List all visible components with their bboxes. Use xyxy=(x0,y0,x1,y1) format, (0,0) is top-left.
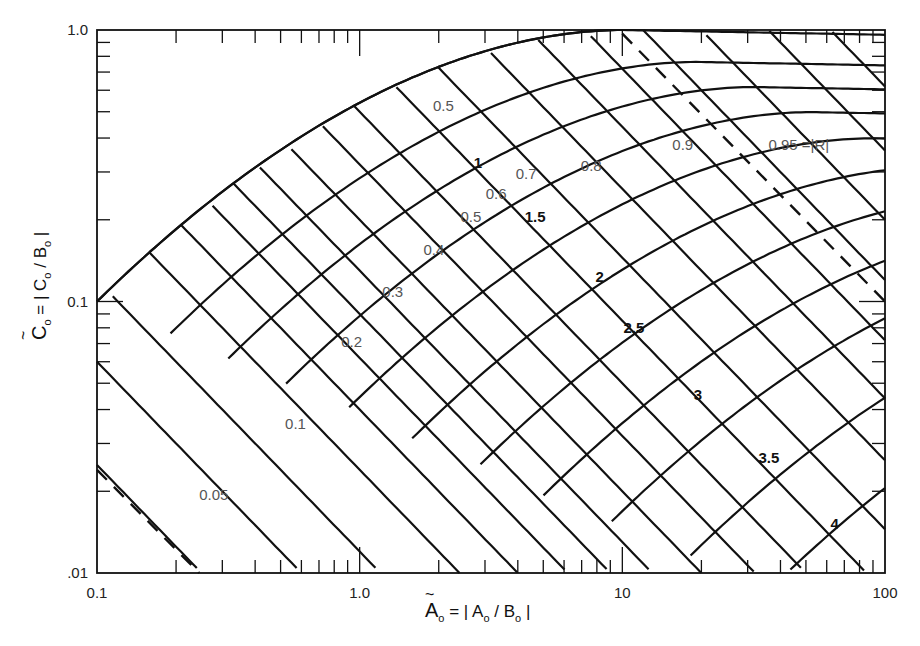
dashed-boundary-line xyxy=(97,470,199,573)
curve-line xyxy=(538,40,885,398)
curve-label: 0.95 =|R| xyxy=(768,136,829,153)
curve-label: 0.4 xyxy=(424,241,445,258)
x-tick-label: 10 xyxy=(614,584,631,601)
curve-label: 0.9 xyxy=(672,136,693,153)
y-axis-title: Co = | Co / Bo | ~ xyxy=(15,232,53,340)
svg-text:Co = | Co / Bo |: Co = | Co / Bo | xyxy=(28,232,53,340)
curve-line xyxy=(228,87,885,359)
smith-like-chart: 0.11.0101001.00.1.01 0.050.10.20.30.40.5… xyxy=(0,0,920,646)
curve-line xyxy=(544,261,886,496)
curve-label: 0.5 xyxy=(433,97,454,114)
curve-label: 0.2 xyxy=(341,333,362,350)
curve-label: 0.6 xyxy=(486,185,507,202)
y-tick-label: 0.1 xyxy=(67,293,88,310)
y-title-tilde: ~ xyxy=(15,331,32,340)
svg-text:Ao = | Ao / Bo |: Ao = | Ao / Bo | xyxy=(425,599,530,624)
curve-label: 0.8 xyxy=(581,157,602,174)
curve-line xyxy=(323,126,754,571)
curve-line xyxy=(769,31,885,151)
tick-labels: 0.11.0101001.00.1.01 xyxy=(67,21,897,601)
curve-line xyxy=(612,318,885,521)
y-tick-label: 1.0 xyxy=(67,21,88,38)
curve-line xyxy=(234,184,607,569)
curve-label: 4 xyxy=(830,515,839,532)
x-tick-label: 100 xyxy=(872,584,897,601)
curve-line xyxy=(213,206,565,570)
curve-label: 3 xyxy=(694,386,702,403)
curve-line xyxy=(833,32,886,86)
curve-line xyxy=(97,465,197,568)
x-tick-label: 0.1 xyxy=(87,584,108,601)
y-tick-label: .01 xyxy=(67,564,88,581)
x-title-tilde: ~ xyxy=(425,586,434,603)
curve-label: 0.05 xyxy=(199,486,228,503)
curve-label: 2.5 xyxy=(623,319,644,336)
x-axis-title: Ao = | Ao / Bo | ~ xyxy=(425,586,530,624)
curve-line xyxy=(171,62,886,334)
curve-label: 3.5 xyxy=(759,449,780,466)
curve-label: 2 xyxy=(595,268,603,285)
curve-label: 0.3 xyxy=(382,283,403,300)
curve-label: 0.5 xyxy=(460,208,481,225)
curve-line xyxy=(591,36,885,340)
curve-label: 1.5 xyxy=(525,208,546,225)
curve-label: 1 xyxy=(474,154,482,171)
curve-label: 0.1 xyxy=(285,415,306,432)
curve-line xyxy=(97,362,297,568)
curve-label: 0.7 xyxy=(516,165,537,182)
curve-line xyxy=(643,30,885,280)
curve-line xyxy=(481,211,886,464)
curve-line xyxy=(354,106,801,568)
x-tick-label: 1.0 xyxy=(349,584,370,601)
